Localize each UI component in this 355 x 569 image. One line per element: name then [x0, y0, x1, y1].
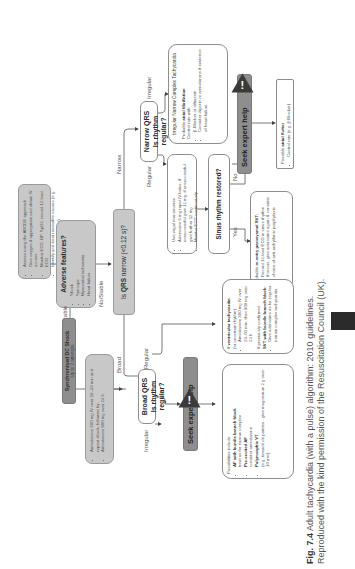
possibility-rest: treat as for narrow complex: [237, 415, 242, 467]
possibility-rest: consider amiodarone: [248, 427, 253, 467]
narrow-qrs-question: Narrow QRS Is rhythm regular?: [140, 101, 158, 162]
connector-broad-regular: [152, 324, 215, 354]
irregular-narrow-item: Consider digoxin or amiodarone if eviden…: [197, 49, 208, 132]
flutter-item: Control rate (e.g. β-Blocker): [286, 84, 292, 157]
page-edge-tab: [331, 312, 355, 330]
figure-number: Fig. 7.4: [305, 533, 315, 564]
label-narrow-regular: Regular: [146, 166, 152, 187]
seek-expert-label: Seek expert help: [240, 107, 249, 167]
reentry-bold: re-entry paroxysmal SVT:: [254, 214, 259, 266]
vagal-manoeuvres-box: Use vagal manoeuvres Adenosine 6 mg rapi…: [167, 154, 197, 254]
vt-head-bold: ventricular tachycardia: [226, 298, 231, 345]
possibility-bold: Pre-excited AF: [243, 437, 248, 467]
sinus-rhythm-question: Sinus rhythm restored?: [208, 154, 230, 254]
assess-box: Assess using the ABCDE approach Give oxy…: [18, 184, 51, 279]
qrs-prefix: Is: [120, 292, 127, 299]
possibilities-box: Possibilities include: AF with bundle br…: [222, 364, 294, 479]
adverse-item: Heart failure: [86, 225, 92, 296]
label-broad: Broad: [116, 357, 122, 373]
flutter-bold: atrial flutter: [280, 123, 285, 147]
irregular-narrow-title: Irregular Narrow Complex Tachycardia: [172, 49, 178, 139]
adverse-features-title: Adverse features?: [60, 225, 68, 303]
label-yes: Yes: [232, 227, 238, 237]
warning-icon: !: [179, 389, 201, 408]
warning-icon: !: [232, 74, 254, 93]
amiodarone-shock-box: Amiodarone 300 mg IV over 10–20 min and …: [85, 354, 114, 464]
irregular-narrow-complex-box: Irregular Narrow Complex Tachycardia Pro…: [168, 44, 228, 144]
possibility-item: AF with bundle branch blocktreat as for …: [232, 369, 243, 467]
label-narrow: Narrow: [116, 155, 122, 174]
vt-item: Amiodarone 300 mg IV over 20–60 min; the…: [237, 284, 254, 342]
assess-item: Monitor ECG, BP, SpO2, record 12 lead EC…: [39, 189, 50, 267]
reentry-item: If recurs, give adenosine again & consid…: [265, 196, 276, 277]
vagal-item: Monitor ECG continuously: [193, 159, 199, 242]
qrs-narrow-question: Is QRS narrow (<0.12 s)?: [113, 209, 135, 315]
connector-narrow: [124, 129, 138, 209]
adverse-features-box: Adverse features? Shock Syncope Myocardi…: [56, 220, 96, 308]
irregular-narrow-af: atrial fibrillation: [181, 88, 186, 120]
figure-caption: Fig. 7.4 Adult tachycardia (with a pulse…: [305, 279, 327, 564]
label-broad-irregular: Irregular: [143, 430, 149, 452]
amiodarone-item: Amiodarone 900 mg over 24 h: [100, 359, 106, 452]
shock-subtitle: Up to 3 attempts: [70, 322, 75, 400]
vt-head-pre: If: [226, 345, 231, 349]
synchronised-shock-box: Synchronised DC Shock Up to 3 attempts: [62, 318, 76, 404]
assess-item: Assess using the ABCDE approach: [22, 189, 28, 267]
label-no: No: [232, 173, 238, 181]
possibility-item: Pre-excited AFconsider amiodarone: [243, 369, 254, 467]
irregular-narrow-intro: Probable: [181, 121, 186, 139]
broad-qrs-line1: Broad QRS: [141, 373, 150, 420]
flutter-intro: Possible: [280, 147, 285, 164]
caption-line1: Adult tachycardia (with a pulse) algorit…: [305, 296, 315, 531]
qrs-suffix: narrow (<0.12 s)?: [120, 225, 127, 278]
possibility-rest: (e.g. torsade de pointes - give magnesiu…: [260, 370, 271, 467]
label-no-stable: No/Stable: [98, 281, 104, 307]
qrs-bold: QRS: [120, 278, 127, 292]
possibility-item: Polymorphic VT(e.g. torsade de pointes -…: [254, 369, 271, 467]
broad-qrs-question: Broad QRS Is rhythm regular?: [138, 369, 156, 424]
reentry-svt-box: Probable re-entry paroxysmal SVT: Record…: [250, 191, 293, 289]
label-narrow-irregular: Irregular: [146, 77, 152, 99]
assess-item: Give oxygen if appropriate and obtain IV…: [28, 189, 39, 267]
possibility-bold: Polymorphic VT: [254, 434, 259, 467]
atrial-flutter-box: Possible atrial flutter Control rate (e.…: [276, 79, 294, 169]
vt-svt-item: Give adenosine as for regular narrow com…: [267, 284, 278, 342]
caption-line2: Reproduced with the kind permission of t…: [316, 279, 327, 564]
tachycardia-algorithm-diagram: Assess using the ABCDE approach Give oxy…: [0, 0, 355, 569]
label-broad-regular: Regular: [143, 348, 149, 369]
ventricular-tachycardia-box: If ventricular tachycardia (or uncertain…: [222, 279, 294, 354]
broad-qrs-line2: Is rhythm regular?: [150, 373, 167, 420]
amiodarone-item: Amiodarone 300 mg IV over 10–20 min and …: [89, 359, 100, 452]
possibility-bold: AF with bundle branch block: [232, 408, 237, 467]
narrow-qrs-line1: Narrow QRS: [143, 105, 152, 158]
vagal-item: Adenosine 6 mg rapid IV bolus; if unsucc…: [177, 159, 194, 242]
narrow-qrs-line2: Is rhythm regular?: [152, 105, 169, 158]
